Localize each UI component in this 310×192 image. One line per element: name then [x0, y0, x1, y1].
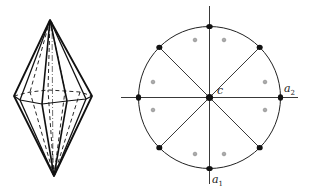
- label-c: c: [217, 84, 223, 97]
- label-a2: a2: [284, 82, 295, 97]
- label-a1: a1: [212, 173, 223, 188]
- center-pole: [206, 94, 213, 101]
- crystal-bipyramid: [14, 20, 92, 176]
- figure-canvas: c a2 a1: [0, 0, 310, 192]
